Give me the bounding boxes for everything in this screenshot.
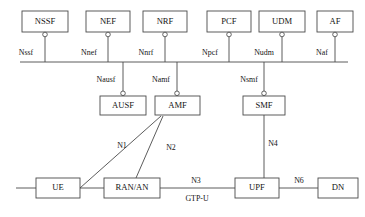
node-amf[interactable]: AMF Namf bbox=[152, 62, 200, 115]
amf-sbi-circle bbox=[175, 91, 180, 96]
edge-n1-group: N1 bbox=[80, 116, 161, 188]
node-ausf[interactable]: AUSF Nausf bbox=[97, 62, 146, 115]
gtpu-label: GTP-U bbox=[185, 194, 209, 203]
dn-label: DN bbox=[332, 182, 345, 192]
af-sbi-circle bbox=[333, 32, 338, 37]
node-nssf[interactable]: NSSF Nssf bbox=[19, 11, 68, 62]
nssf-interface-label: Nssf bbox=[19, 48, 34, 57]
architecture-diagram: NSSF Nssf NEF Nnef NRF Nnrf bbox=[0, 0, 365, 217]
node-nef[interactable]: NEF Nnef bbox=[81, 11, 130, 62]
node-ue[interactable]: UE bbox=[36, 178, 80, 198]
smf-sbi-circle bbox=[262, 91, 267, 96]
smf-label: SMF bbox=[255, 100, 272, 110]
top-row-group: NSSF Nssf NEF Nnef NRF Nnrf bbox=[19, 11, 353, 62]
af-interface-label: Naf bbox=[316, 48, 328, 57]
edge-n4-group: N4 bbox=[264, 115, 278, 178]
node-smf[interactable]: SMF Nsmf bbox=[240, 62, 285, 115]
udm-sbi-circle bbox=[280, 32, 285, 37]
node-af[interactable]: AF Naf bbox=[316, 11, 353, 62]
edge-ran-amf-n2 bbox=[136, 116, 163, 178]
nef-label: NEF bbox=[100, 16, 116, 26]
n3-label: N3 bbox=[191, 176, 201, 185]
second-row-group: AUSF Nausf AMF Namf SMF Nsmf bbox=[97, 62, 285, 115]
nrf-label: NRF bbox=[157, 16, 174, 26]
smf-interface-label: Nsmf bbox=[240, 75, 258, 84]
n1-label: N1 bbox=[117, 141, 127, 150]
nrf-interface-label: Nnrf bbox=[139, 48, 154, 57]
node-dn[interactable]: DN bbox=[318, 178, 358, 198]
nrf-sbi-circle bbox=[163, 32, 168, 37]
udm-label: UDM bbox=[272, 16, 292, 26]
af-label: AF bbox=[330, 16, 341, 26]
ausf-label: AUSF bbox=[112, 100, 134, 110]
nssf-label: NSSF bbox=[35, 16, 56, 26]
ran-an-label: RAN/AN bbox=[116, 182, 150, 192]
amf-interface-label: Namf bbox=[152, 75, 170, 84]
node-nrf[interactable]: NRF Nnrf bbox=[139, 11, 187, 62]
ausf-interface-label: Nausf bbox=[97, 75, 116, 84]
node-upf[interactable]: UPF bbox=[235, 178, 279, 198]
node-udm[interactable]: UDM Nudm bbox=[254, 11, 305, 62]
udm-interface-label: Nudm bbox=[254, 48, 275, 57]
bottom-row-group: UE RAN/AN N3 GTP-U UPF N6 bbox=[16, 176, 358, 203]
nssf-sbi-circle bbox=[43, 32, 48, 37]
amf-label: AMF bbox=[168, 100, 187, 110]
node-ran-an[interactable]: RAN/AN bbox=[104, 178, 160, 198]
ue-label: UE bbox=[52, 182, 63, 192]
pcf-sbi-circle bbox=[227, 32, 232, 37]
nef-interface-label: Nnef bbox=[81, 48, 97, 57]
pcf-interface-label: Npcf bbox=[202, 48, 218, 57]
node-pcf[interactable]: PCF Npcf bbox=[202, 11, 251, 62]
n6-label: N6 bbox=[294, 176, 304, 185]
upf-label: UPF bbox=[249, 182, 265, 192]
edge-n2-group: N2 bbox=[136, 116, 176, 178]
architecture-canvas: NSSF Nssf NEF Nnef NRF Nnrf bbox=[0, 0, 365, 217]
pcf-label: PCF bbox=[221, 16, 237, 26]
edge-ue-amf-n1 bbox=[80, 116, 161, 188]
ausf-sbi-circle bbox=[121, 91, 126, 96]
n2-label: N2 bbox=[166, 143, 176, 152]
nef-sbi-circle bbox=[106, 32, 111, 37]
n4-label: N4 bbox=[268, 139, 278, 148]
